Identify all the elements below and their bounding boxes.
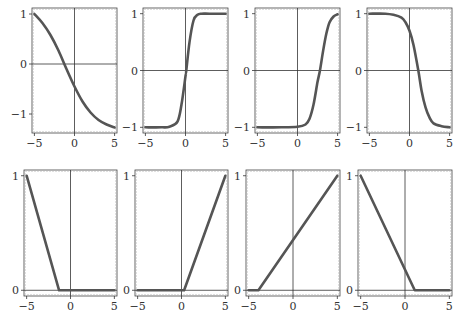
y-tick-label: 0 xyxy=(123,284,130,297)
activation-functions-figure: −505−101−505−101−505−101−505−101−50501−5… xyxy=(0,0,461,313)
y-tick-label: 1 xyxy=(131,8,138,21)
x-tick-label: −5 xyxy=(26,137,42,150)
y-tick-label: 1 xyxy=(346,170,353,183)
x-tick-label: 0 xyxy=(294,137,301,150)
y-tick-label: −1 xyxy=(234,121,250,134)
y-tick-label: 0 xyxy=(12,284,19,297)
x-tick-label: −5 xyxy=(353,300,369,313)
panel-row1-col2: −505−101 xyxy=(122,8,229,150)
x-tick-label: −5 xyxy=(361,137,377,150)
x-tick-label: 0 xyxy=(67,300,74,313)
y-tick-label: 0 xyxy=(131,65,138,78)
x-tick-label: 5 xyxy=(111,300,118,313)
panel-row2-col4: −50501 xyxy=(346,170,453,313)
panel-row2-col3: −50501 xyxy=(234,170,341,313)
x-tick-label: 0 xyxy=(290,300,297,313)
x-tick-label: 5 xyxy=(446,300,453,313)
panel-row2-col1: −50501 xyxy=(12,170,118,313)
panel-row2-col2: −50501 xyxy=(123,170,229,313)
y-tick-label: 0 xyxy=(346,284,353,297)
y-tick-label: 1 xyxy=(12,170,19,183)
y-tick-label: 1 xyxy=(355,8,362,21)
y-tick-label: −1 xyxy=(11,108,27,121)
y-tick-label: 0 xyxy=(234,284,241,297)
x-tick-label: 0 xyxy=(71,137,78,150)
x-tick-label: 5 xyxy=(334,300,341,313)
y-tick-label: 0 xyxy=(243,65,250,78)
y-tick-label: −1 xyxy=(122,121,138,134)
y-tick-label: 0 xyxy=(20,58,27,71)
x-tick-label: −5 xyxy=(19,300,35,313)
x-tick-label: 5 xyxy=(446,137,453,150)
y-tick-label: 1 xyxy=(123,170,130,183)
panel-row1-col1: −505−101 xyxy=(11,8,118,150)
y-tick-label: 1 xyxy=(243,8,250,21)
x-tick-label: 0 xyxy=(178,300,185,313)
x-tick-label: 5 xyxy=(222,137,229,150)
x-tick-label: −5 xyxy=(137,137,153,150)
y-tick-label: −1 xyxy=(346,121,362,134)
x-tick-label: 5 xyxy=(334,137,341,150)
x-tick-label: 5 xyxy=(222,300,229,313)
y-tick-label: 1 xyxy=(20,8,27,21)
x-tick-label: 0 xyxy=(402,300,409,313)
x-tick-label: −5 xyxy=(249,137,265,150)
x-tick-label: 0 xyxy=(182,137,189,150)
x-tick-label: −5 xyxy=(241,300,257,313)
x-tick-label: 0 xyxy=(406,137,413,150)
y-tick-label: 0 xyxy=(355,65,362,78)
x-tick-label: −5 xyxy=(130,300,146,313)
y-tick-label: 1 xyxy=(234,170,241,183)
panel-row1-col4: −505−101 xyxy=(346,8,453,150)
x-tick-label: 5 xyxy=(111,137,118,150)
panel-row1-col3: −505−101 xyxy=(234,8,341,150)
